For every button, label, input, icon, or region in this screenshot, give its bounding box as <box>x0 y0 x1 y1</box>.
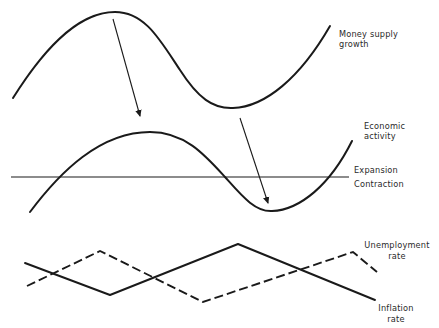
money-supply-label-line2: growth <box>339 39 369 49</box>
contraction-label: Contraction <box>354 179 404 189</box>
lead-arrow-peak <box>113 19 140 116</box>
expansion-label: Expansion <box>354 165 398 175</box>
unemployment-rate-label-line2: rate <box>388 251 405 261</box>
unemployment-rate-label-line1: Unemployment <box>364 240 430 250</box>
inflation-rate-label-line1: Inflation <box>378 303 413 313</box>
inflation-rate-label-line2: rate <box>387 314 404 324</box>
economic-activity-label-line2: activity <box>364 131 396 141</box>
lead-arrow-trough <box>240 118 268 203</box>
economic-activity-label-line1: Economic <box>364 121 405 131</box>
economic-cycle-diagram: Money supply growth Economic activity Ex… <box>0 0 439 328</box>
economic-activity-curve <box>30 132 352 212</box>
money-supply-growth-curve <box>13 12 330 108</box>
money-supply-label-line1: Money supply <box>339 29 398 39</box>
inflation-rate-line <box>25 244 375 300</box>
